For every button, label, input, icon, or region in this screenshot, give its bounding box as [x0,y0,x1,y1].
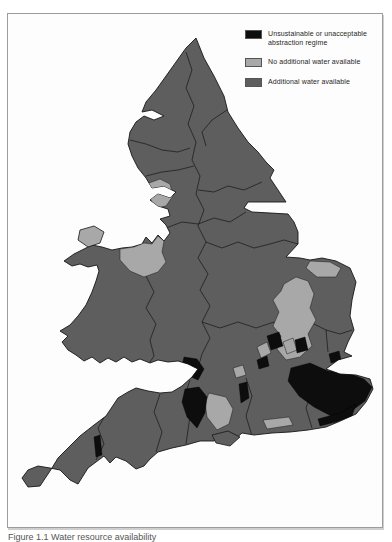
legend: Unsustainable or unacceptable abstractio… [245,29,377,87]
legend-swatch-unsustainable [245,30,262,39]
legend-item: No additional water available [245,57,377,67]
legend-item: Unsustainable or unacceptable abstractio… [245,29,377,47]
legend-label: Unsustainable or unacceptable abstractio… [268,29,377,47]
legend-label: Additional water available [268,77,350,86]
legend-label: No additional water available [268,57,360,66]
legend-item: Additional water available [245,77,377,87]
legend-swatch-no-additional [245,58,262,67]
legend-swatch-additional [245,78,262,87]
figure-caption: Figure 1.1 Water resource availability [8,532,388,542]
map-region [78,226,104,247]
